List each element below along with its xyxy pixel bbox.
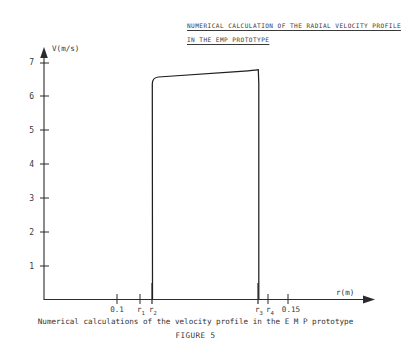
x-axis-label: r(m) (336, 288, 354, 297)
y-axis (40, 47, 48, 300)
velocity-profile-curve (152, 70, 258, 299)
x-axis-boundary-ticks (152, 283, 258, 304)
figure-number-text: FIGURE 5 (176, 331, 216, 340)
y-tick-label-1: 1 (22, 262, 34, 271)
y-axis-label: V(m/s) (52, 44, 79, 53)
figure-number: FIGURE 5 (0, 331, 391, 340)
x-tick-label-0-1: 0.1 (105, 305, 129, 314)
x-tick-label-0-15: 0.15 (276, 305, 306, 314)
x-axis (44, 295, 375, 303)
y-tick-label-3: 3 (22, 194, 34, 203)
r2-sub: 2 (154, 310, 157, 316)
figure-caption: Numerical calculations of the velocity p… (0, 317, 391, 326)
y-tick-label-2: 2 (22, 228, 34, 237)
y-tick-label-5: 5 (22, 126, 34, 135)
x-tick-label-r2: r2 (145, 305, 161, 316)
y-tick-label-6: 6 (22, 92, 34, 101)
r4-sub: 4 (271, 310, 274, 316)
y-tick-label-4: 4 (22, 160, 34, 169)
y-tick-label-7: 7 (22, 58, 34, 67)
